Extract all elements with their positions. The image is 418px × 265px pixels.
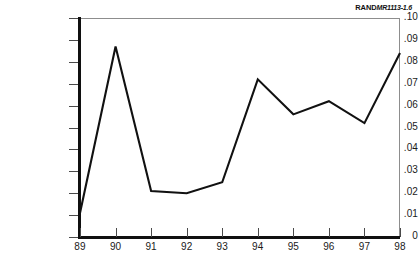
data-series-svg — [0, 0, 418, 265]
data-series-line — [80, 46, 400, 212]
chart-screenshot: RANDMR1113-1.6 .10.09.08.07.06.05.04.03.… — [0, 0, 418, 265]
